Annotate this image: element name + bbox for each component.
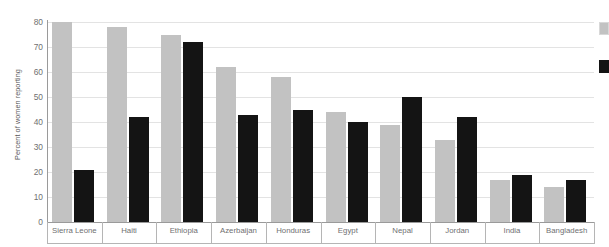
category-label: Haiti: [102, 226, 157, 235]
y-tick-label: 50: [9, 92, 43, 102]
y-tick-label: 60: [9, 67, 43, 77]
bar: [271, 77, 291, 222]
y-tick-label: 40: [9, 117, 43, 127]
bar: [326, 112, 346, 222]
bar: [512, 175, 532, 223]
x-axis-bottom-rule: [47, 243, 595, 244]
bar-group: [485, 22, 540, 222]
bar: [544, 187, 564, 222]
legend: [595, 18, 609, 88]
category-label: Azerbaijan: [211, 226, 266, 235]
bar: [566, 180, 586, 223]
y-axis-tick-labels: 01020304050607080: [5, 22, 43, 222]
bar: [457, 117, 477, 222]
category-label: India: [485, 226, 540, 235]
bar: [216, 67, 236, 222]
bar-group: [211, 22, 266, 222]
y-axis-line: [47, 20, 48, 223]
bar: [293, 110, 313, 223]
y-tick-label: 0: [9, 217, 43, 227]
bar: [435, 140, 455, 223]
series-1-swatch: [599, 22, 609, 35]
category-label: Sierra Leone: [47, 226, 102, 235]
bar-group: [156, 22, 211, 222]
bar: [129, 117, 149, 222]
bar: [348, 122, 368, 222]
category-label: Nepal: [375, 226, 430, 235]
y-tick-label: 10: [9, 192, 43, 202]
category-label: Jordan: [430, 226, 485, 235]
bar: [52, 22, 72, 222]
bar: [238, 115, 258, 223]
bar: [183, 42, 203, 222]
category-label: Ethiopia: [156, 226, 211, 235]
bar-group: [102, 22, 157, 222]
bar-group: [47, 22, 102, 222]
category-label: Egypt: [321, 226, 376, 235]
bar: [107, 27, 127, 222]
y-tick-label: 20: [9, 167, 43, 177]
category-label: Bangladesh: [539, 226, 594, 235]
y-tick-label: 70: [9, 42, 43, 52]
bar-group: [266, 22, 321, 222]
bar: [490, 180, 510, 223]
series-2-swatch: [599, 60, 609, 73]
x-axis-category-labels: Sierra LeoneHaitiEthiopiaAzerbaijanHondu…: [47, 222, 595, 244]
category-separator: [594, 222, 595, 244]
y-tick-label: 30: [9, 142, 43, 152]
bar-group: [430, 22, 485, 222]
bar: [74, 170, 94, 223]
bar: [161, 35, 181, 223]
bar-group: [375, 22, 430, 222]
category-label: Honduras: [266, 226, 321, 235]
bar-group: [321, 22, 376, 222]
bar: [402, 97, 422, 222]
y-tick-label: 80: [9, 17, 43, 27]
bar-group: [539, 22, 594, 222]
bar-chart: Percent of women reporting 0102030405060…: [0, 0, 609, 247]
bar: [380, 125, 400, 223]
plot-area: [47, 22, 594, 222]
